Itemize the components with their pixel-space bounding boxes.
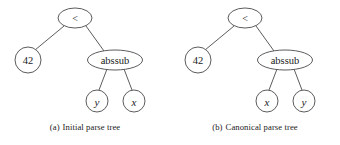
tree-b-node-leaf-left: x [256, 90, 278, 112]
tree-a-node-leaf-right: x [123, 90, 145, 112]
caption-text-b: Canonical parse tree [226, 122, 298, 132]
edge-root-to-abssub [86, 26, 104, 51]
edge-abssub-to-y [294, 69, 302, 90]
caption-text-a: Initial parse tree [63, 122, 121, 132]
parse-tree-b: < 42 abssub x y [185, 8, 315, 112]
tree-a-node-42: 42 [15, 47, 41, 73]
caption-tag-a: (a) [50, 122, 60, 132]
edge-root-to-42 [205, 26, 234, 50]
node-label-root: < [72, 13, 78, 24]
tree-b-node-42: 42 [185, 47, 211, 73]
node-label-leaf-left: x [264, 96, 270, 108]
edge-root-to-abssub [256, 26, 274, 51]
parse-tree-figure: < 42 abssub y x [0, 0, 340, 145]
tree-b-node-abssub: abssub [258, 50, 313, 70]
tree-b-node-leaf-right: y [293, 90, 315, 112]
node-label-leaf-right: y [301, 96, 307, 108]
node-label-root: < [242, 13, 248, 24]
subfigure-caption-b: (b)Canonical parse tree [170, 121, 340, 133]
edge-abssub-to-y [99, 69, 107, 90]
node-label-42: 42 [193, 55, 204, 66]
node-label-leaf-left: y [94, 96, 100, 108]
node-label-abssub: abssub [271, 55, 300, 66]
tree-a-node-abssub: abssub [88, 50, 143, 70]
edge-root-to-42 [35, 26, 64, 50]
parse-tree-a: < 42 abssub y x [15, 8, 145, 112]
node-label-42: 42 [23, 55, 34, 66]
tree-a-node-leaf-left: y [86, 90, 108, 112]
edge-abssub-to-x [124, 69, 132, 90]
subfigure-caption-a: (a)Initial parse tree [0, 121, 170, 133]
tree-a-node-root: < [58, 8, 92, 28]
tree-b-node-root: < [228, 8, 262, 28]
node-label-abssub: abssub [101, 55, 130, 66]
edge-abssub-to-x [269, 69, 277, 90]
caption-tag-b: (b) [212, 122, 222, 132]
node-label-leaf-right: x [131, 96, 137, 108]
